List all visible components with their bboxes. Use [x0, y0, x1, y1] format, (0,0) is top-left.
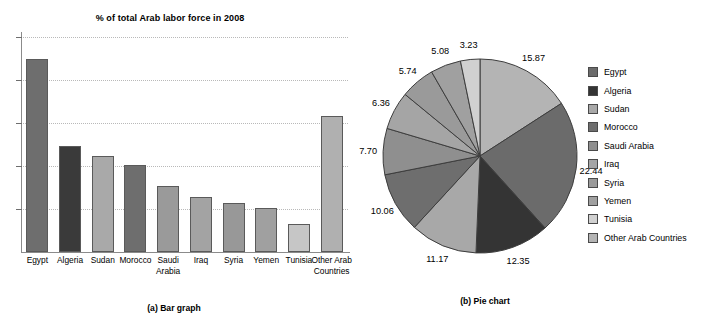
legend-item-label: Iraq: [604, 159, 619, 169]
legend-item-label: Sudan: [604, 104, 629, 114]
legend-swatch-icon: [588, 196, 598, 206]
legend-swatch-icon: [588, 233, 598, 243]
legend-item: Egypt: [588, 63, 707, 81]
legend-swatch-icon: [588, 178, 598, 188]
bar-plot-area: [21, 37, 348, 252]
bar-y-tick: [16, 123, 22, 124]
pie-panel-caption: (b) Pie chart: [370, 296, 600, 306]
pie-value-label: 6.36: [372, 98, 390, 108]
bar-graph-panel: % of total Arab labor force in 2008 Egyp…: [0, 0, 360, 327]
legend-item-label: Yemen: [604, 196, 631, 206]
bar: [190, 197, 212, 252]
bar-gridline: [21, 80, 348, 81]
pie-value-label: 5.74: [399, 66, 417, 76]
figure-container: % of total Arab labor force in 2008 Egyp…: [0, 0, 707, 327]
legend-item: Saudi Arabia: [588, 137, 707, 155]
legend-swatch-icon: [588, 159, 598, 169]
pie-legend: EgyptAlgeriaSudanMoroccoSaudi ArabiaIraq…: [588, 63, 707, 247]
bar: [92, 156, 114, 252]
legend-item-label: Tunisia: [604, 214, 632, 224]
legend-item-label: Algeria: [604, 86, 631, 96]
bar: [26, 59, 48, 252]
legend-swatch-icon: [588, 141, 598, 151]
pie-value-label: 11.17: [426, 254, 448, 264]
pie-value-label: 3.23: [460, 40, 478, 50]
bar: [124, 165, 146, 252]
legend-item: Yemen: [588, 192, 707, 210]
bar-panel-caption: (a) Bar graph: [0, 303, 348, 313]
bar-y-tick: [16, 80, 22, 81]
legend-item-label: Saudi Arabia: [604, 141, 654, 151]
bar-chart-title: % of total Arab labor force in 2008: [0, 13, 340, 23]
bar-y-tick: [16, 37, 22, 38]
legend-item-label: Egypt: [604, 67, 627, 77]
bar-gridline: [21, 37, 348, 38]
pie-graphic: 15.8722.4412.3511.1710.067.706.365.745.0…: [380, 56, 580, 256]
bar: [157, 186, 179, 252]
bar-x-axis: [21, 252, 350, 253]
pie-value-label: 10.06: [371, 206, 394, 216]
bar: [288, 224, 310, 252]
legend-item: Morocco: [588, 118, 707, 136]
bar-gridline: [21, 123, 348, 124]
legend-item: Tunisia: [588, 210, 707, 228]
bar: [321, 116, 343, 252]
legend-swatch-icon: [588, 214, 598, 224]
legend-item-label: Morocco: [604, 122, 638, 132]
legend-item: Algeria: [588, 81, 707, 99]
legend-swatch-icon: [588, 104, 598, 114]
pie-value-label: 12.35: [507, 256, 530, 266]
legend-swatch-icon: [588, 67, 598, 77]
legend-item: Iraq: [588, 155, 707, 173]
pie-chart-panel: 15.8722.4412.3511.1710.067.706.365.745.0…: [360, 0, 707, 327]
legend-item-label: Other Arab Countries: [604, 233, 687, 243]
bar-y-tick: [16, 166, 22, 167]
legend-item-label: Syria: [604, 178, 624, 188]
pie-value-label: 15.87: [522, 53, 545, 63]
legend-swatch-icon: [588, 86, 598, 96]
bar: [255, 208, 277, 252]
legend-item: Other Arab Countries: [588, 229, 707, 247]
bar: [223, 203, 245, 252]
bar-x-label: Other Arab Countries: [309, 255, 354, 276]
bar: [59, 146, 81, 252]
legend-item: Syria: [588, 173, 707, 191]
bar-y-tick: [16, 209, 22, 210]
pie-value-label: 5.08: [431, 46, 449, 56]
pie-value-label: 7.70: [359, 146, 377, 156]
legend-item: Sudan: [588, 100, 707, 118]
bar-x-axis-labels: EgyptAlgeriaSudanMoroccoSaudi ArabiaIraq…: [21, 255, 350, 305]
legend-swatch-icon: [588, 122, 598, 132]
